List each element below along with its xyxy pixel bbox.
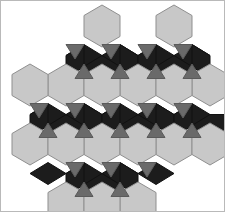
rhombus-tile — [30, 163, 66, 185]
figure-root — [0, 0, 225, 212]
tiling-illustration — [0, 0, 225, 212]
hexagon-tile — [156, 5, 192, 47]
hexagon-tile — [12, 64, 48, 106]
hexagon-tile — [84, 5, 120, 47]
